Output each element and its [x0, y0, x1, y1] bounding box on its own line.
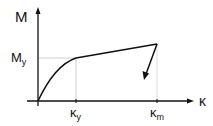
x-axis-arrow-icon	[187, 99, 194, 104]
softening-arrow-icon	[143, 71, 150, 80]
softening-line	[146, 44, 157, 74]
y-axis-arrow-icon	[36, 7, 41, 14]
ky-label: κy	[70, 106, 81, 119]
x-axis-label: κ	[199, 94, 206, 108]
my-label: My	[11, 51, 26, 64]
y-axis-label: M	[15, 9, 28, 24]
moment-curvature-diagram	[0, 0, 213, 126]
km-label: κm	[150, 106, 164, 119]
moment-curve	[38, 44, 157, 101]
